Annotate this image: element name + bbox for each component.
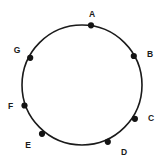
point-label-a: A bbox=[89, 10, 95, 19]
circle-outline bbox=[22, 25, 142, 145]
point-label-f: F bbox=[8, 102, 13, 111]
point-label-c: C bbox=[148, 114, 154, 123]
point-label-e: E bbox=[25, 140, 31, 149]
point-marker-g[interactable] bbox=[27, 55, 33, 61]
point-marker-e[interactable] bbox=[39, 131, 45, 137]
circle-diagram-canvas: ABCDEFG bbox=[0, 0, 164, 164]
point-label-b: B bbox=[147, 50, 153, 59]
point-marker-f[interactable] bbox=[21, 102, 27, 108]
point-marker-b[interactable] bbox=[131, 53, 137, 59]
point-label-d: D bbox=[121, 148, 127, 157]
point-marker-c[interactable] bbox=[132, 116, 138, 122]
point-marker-d[interactable] bbox=[105, 139, 111, 145]
point-label-g: G bbox=[14, 46, 21, 55]
point-marker-a[interactable] bbox=[88, 22, 94, 28]
